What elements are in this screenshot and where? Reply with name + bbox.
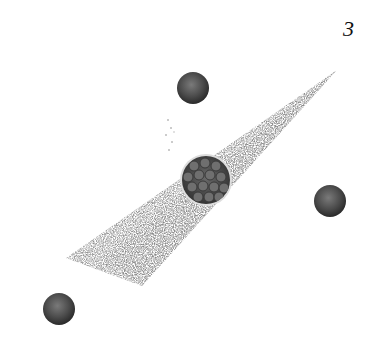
magnified-inset xyxy=(180,154,232,206)
figure-number: 3 xyxy=(343,16,354,42)
sphere-right xyxy=(314,185,346,217)
illustration xyxy=(0,0,390,362)
sphere-bottom-left xyxy=(43,293,75,325)
figure: 3 xyxy=(0,0,390,362)
faint-particles xyxy=(165,119,175,151)
sphere-top xyxy=(177,72,209,104)
